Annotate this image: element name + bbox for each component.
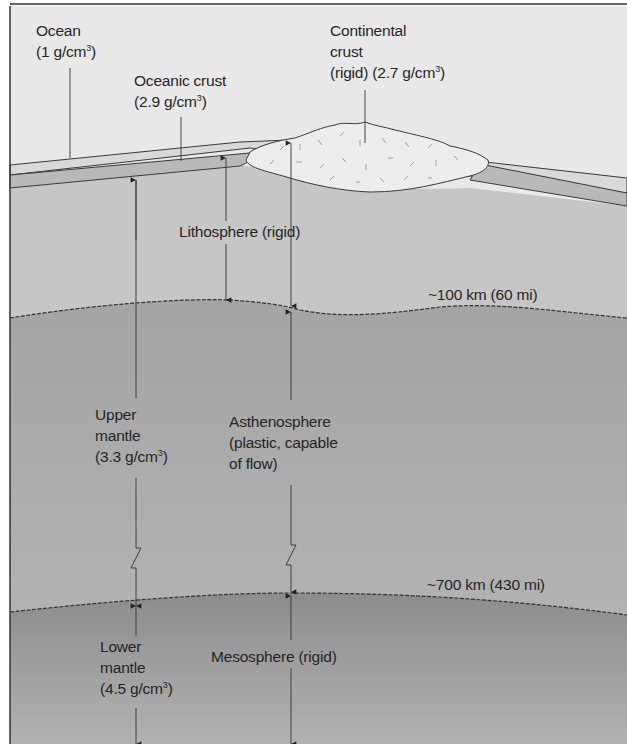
continental-crust-density: (rigid) (2.7 g/cm3) <box>330 62 445 83</box>
oceanic-crust-name: Oceanic crust <box>134 70 226 91</box>
upper-mantle-line2: mantle <box>95 425 168 446</box>
continental-crust-label: Continental crust (rigid) (2.7 g/cm3) <box>330 20 445 83</box>
continental-crust-line1: Continental <box>330 20 445 41</box>
lower-mantle-density: (4.5 g/cm3) <box>100 678 173 699</box>
lower-mantle-label: Lower mantle (4.5 g/cm3) <box>100 636 173 699</box>
ocean-label: Ocean (1 g/cm3) <box>36 20 96 62</box>
oceanic-crust-label: Oceanic crust (2.9 g/cm3) <box>134 70 226 112</box>
continental-crust-line2: crust <box>330 41 445 62</box>
oceanic-crust-density: (2.9 g/cm3) <box>134 91 226 112</box>
asthenosphere-line3: of flow) <box>229 453 338 474</box>
upper-mantle-line1: Upper <box>95 404 168 425</box>
asthenosphere-line1: Asthenosphere <box>229 411 338 432</box>
depth-700km-label: ~700 km (430 mi) <box>427 574 545 595</box>
earth-layers-diagram: Ocean (1 g/cm3) Oceanic crust (2.9 g/cm3… <box>0 0 627 744</box>
upper-mantle-label: Upper mantle (3.3 g/cm3) <box>95 404 168 467</box>
upper-mantle-density: (3.3 g/cm3) <box>95 446 168 467</box>
lower-mantle-line1: Lower <box>100 636 173 657</box>
lower-mantle-line2: mantle <box>100 657 173 678</box>
lithosphere-label: Lithosphere (rigid) <box>179 221 300 242</box>
depth-100km-label: ~100 km (60 mi) <box>428 284 537 305</box>
ocean-name: Ocean <box>36 20 96 41</box>
cross-section-graphic <box>0 0 627 744</box>
asthenosphere-label: Asthenosphere (plastic, capable of flow) <box>229 411 338 474</box>
asthenosphere-line2: (plastic, capable <box>229 432 338 453</box>
mesosphere-label: Mesosphere (rigid) <box>211 646 337 667</box>
ocean-density: (1 g/cm3) <box>36 41 96 62</box>
